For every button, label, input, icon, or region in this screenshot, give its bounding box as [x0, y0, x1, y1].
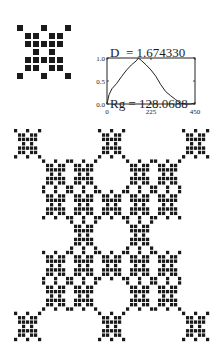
fractal-pattern: [0, 0, 223, 349]
